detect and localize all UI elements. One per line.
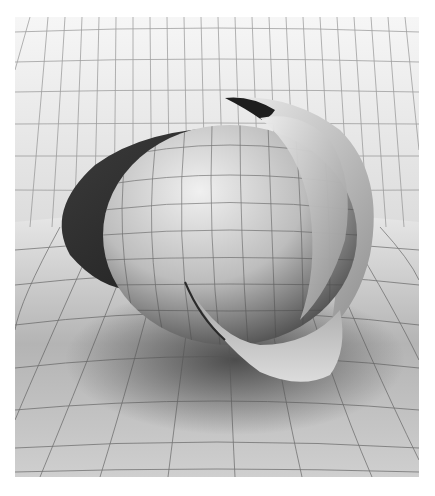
rendered-scene (0, 0, 435, 496)
